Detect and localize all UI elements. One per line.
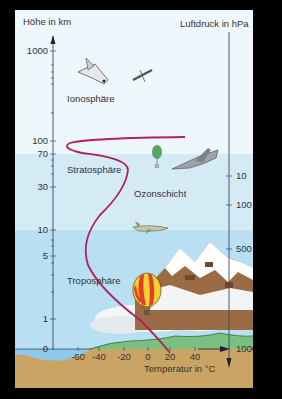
left-tick-30: 30 [37, 181, 48, 192]
right-tick-100: 100 [236, 199, 252, 210]
left-tick-1000: 1000 [27, 45, 48, 56]
bottom-tick-20: 20 [165, 351, 176, 362]
left-axis-title: Höhe in km [23, 16, 71, 27]
troposphere-label: Troposphäre [67, 275, 121, 286]
ionosphere-band [15, 10, 253, 154]
left-tick-0: 0 [43, 343, 48, 354]
left-tick-100: 100 [32, 135, 48, 146]
ionosphere-label: Ionosphäre [67, 93, 115, 104]
right-axis-title: Luftdruck in hPa [180, 18, 249, 29]
stratosphere-label: Stratosphäre [67, 164, 121, 175]
left-tick-5: 5 [43, 250, 48, 261]
right-tick-500: 500 [236, 243, 252, 254]
right-tick-10: 10 [236, 170, 247, 181]
bottom-tick-neg40: -40 [92, 351, 106, 362]
bottom-axis-title: Temperatur in °C [144, 363, 216, 374]
bottom-tick-neg60: -60 [71, 351, 85, 362]
bottom-tick-neg20: -20 [117, 351, 131, 362]
atmosphere-diagram: Höhe in km Luftdruck in hPa Temperatur i… [15, 10, 253, 388]
right-tick-1000: 1000 [236, 343, 253, 354]
left-tick-70: 70 [37, 148, 48, 159]
left-tick-10: 10 [37, 224, 48, 235]
bottom-tick-40: 40 [190, 351, 201, 362]
ozone-label: Ozonschicht [134, 188, 187, 199]
left-tick-1: 1 [43, 313, 48, 324]
bottom-tick-0: 0 [145, 351, 150, 362]
